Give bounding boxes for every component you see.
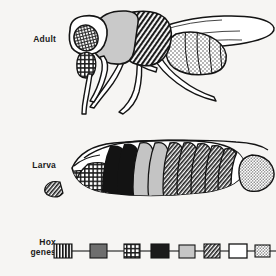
adult-fly-drawing	[69, 11, 274, 114]
hox-gene-1[interactable]	[90, 244, 107, 258]
hox-gene-2[interactable]	[124, 244, 140, 258]
hox-gene-6[interactable]	[229, 244, 247, 258]
hox-gene-0[interactable]	[54, 244, 72, 258]
larva-drawing	[45, 140, 274, 208]
larva-mouth-hooks	[45, 182, 63, 198]
drosophila-hox-illustration	[0, 0, 276, 276]
hox-gene-cluster	[54, 244, 276, 258]
hox-gene-5[interactable]	[204, 244, 220, 258]
hox-gene-7[interactable]	[255, 245, 270, 257]
figure-root: Adult Larva Hox genes	[0, 0, 276, 276]
hox-gene-4[interactable]	[179, 245, 195, 258]
hox-gene-3[interactable]	[151, 244, 169, 258]
adult-maxillary-palp	[77, 52, 96, 78]
larva-tail-segment	[239, 155, 274, 191]
